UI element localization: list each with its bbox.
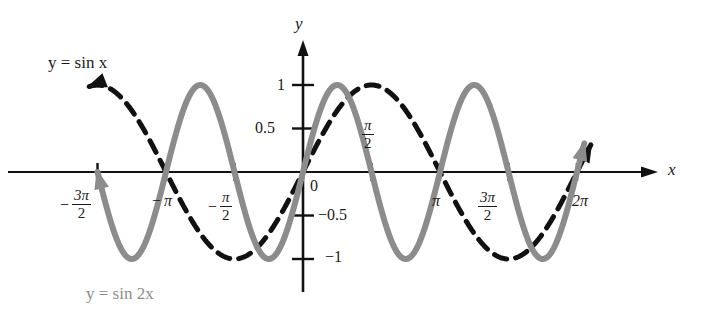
x-tick-label-content-5: 3π2 [478, 190, 497, 224]
x-tick-label-2: −π2 [208, 190, 232, 224]
curve-sin-2x-arrowhead-end [573, 141, 588, 162]
x-tick-label-1: −π [152, 192, 172, 210]
fraction: 3π2 [478, 190, 497, 224]
minus-sign-icon: − [60, 196, 69, 214]
origin-label: 0 [310, 177, 318, 195]
x-tick-label-3: π2 [362, 116, 374, 152]
x-axis-label: x [668, 160, 676, 180]
x-axis-arrowhead [641, 167, 658, 178]
curve-sin-x-arrowhead-start [87, 73, 108, 87]
curve-label-sin-2x: y = sin 2x [86, 284, 154, 304]
fraction-numerator: 3π [478, 190, 497, 207]
minus-sign-icon: − [208, 198, 217, 216]
fraction-numerator: 3π [72, 188, 91, 205]
minus-sign-icon: − [152, 192, 161, 210]
fraction-denominator: 2 [72, 205, 91, 221]
curves-group [87, 73, 593, 259]
x-tick-label-content-1: −π [152, 192, 172, 210]
fraction: 3π2 [72, 188, 91, 222]
fraction-numerator: π [220, 190, 232, 207]
x-tick-label-5: 3π2 [478, 188, 497, 224]
y-tick-label-1: 0.5 [255, 119, 275, 137]
tick-value-text: π [164, 192, 172, 210]
x-tick-label-content-2: −π2 [208, 190, 232, 224]
y-tick-label-3: −1 [325, 248, 342, 266]
sine-graph-figure: y x 0 10.5−0.5−1 −3π2−π−π2π2π3π22π y = s… [0, 0, 713, 319]
x-tick-label-0: −3π2 [60, 188, 91, 222]
x-tick-label-6: 2π [572, 192, 588, 210]
tick-value-text: 2π [572, 192, 588, 210]
tick-value-text: π [432, 192, 440, 210]
plot-canvas [0, 0, 713, 319]
fraction-numerator: π [362, 118, 374, 135]
curve-label-sin-x: y = sin x [48, 53, 107, 73]
y-tick-label-2: −0.5 [318, 206, 347, 224]
y-axis-label: y [295, 14, 303, 34]
x-tick-label-content-3: π2 [362, 118, 374, 152]
x-tick-label-content-6: 2π [572, 192, 588, 210]
y-axis-arrowhead [298, 40, 309, 56]
fraction: π2 [220, 190, 232, 224]
x-tick-label-4: π [432, 192, 440, 210]
fraction-denominator: 2 [478, 207, 497, 223]
x-tick-label-content-4: π [432, 192, 440, 210]
x-tick-label-content-0: −3π2 [60, 188, 91, 222]
y-tick-label-0: 1 [277, 76, 285, 94]
fraction-denominator: 2 [362, 135, 374, 151]
fraction-denominator: 2 [220, 207, 232, 223]
fraction: π2 [362, 118, 374, 152]
